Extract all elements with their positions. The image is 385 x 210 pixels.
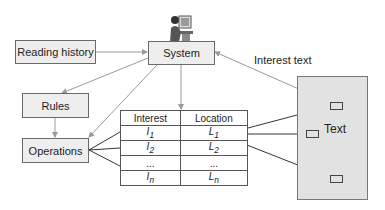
rules-node: Rules [22,93,89,118]
header-interest: Interest [121,111,181,126]
table-row: In Ln [121,171,248,186]
system-node: System [148,41,215,65]
table-row: I1 L1 [121,126,248,141]
location-cell: L2 [180,141,247,156]
operations-node: Operations [22,138,89,163]
table-row: ... ... [121,156,248,171]
location-cell: L1 [180,126,247,141]
location-cell: ... [180,156,247,171]
interest-location-table: Interest Location I1 L1 I2 L2 ... ... In… [120,110,248,186]
interest-cell: ... [121,156,181,171]
system-label: System [163,47,200,59]
interest-cell: I1 [121,126,181,141]
interest-cell: In [121,171,181,186]
text-anchor-box-2 [306,130,319,138]
interest-cell: I2 [121,141,181,156]
interest-text-label: Interest text [254,54,311,66]
header-location: Location [180,111,247,126]
text-anchor-box-1 [330,102,343,110]
reading-history-label: Reading history [17,46,93,58]
reading-history-node: Reading history [15,40,96,64]
text-anchor-box-3 [330,175,343,183]
table-header-row: Interest Location [121,111,248,126]
user-at-computer-icon [168,14,194,42]
text-panel-label: Text [324,122,346,136]
location-cell: Ln [180,171,247,186]
rules-label: Rules [41,100,69,112]
table-row: I2 L2 [121,141,248,156]
operations-label: Operations [29,145,83,157]
